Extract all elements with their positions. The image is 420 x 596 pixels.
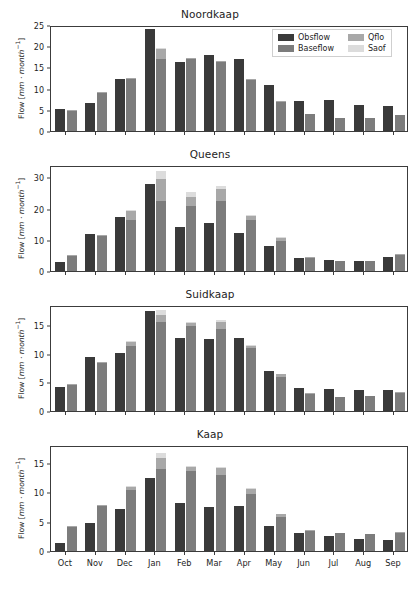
x-tick-mark <box>184 132 185 135</box>
chart-legend: ObsflowQfloBaseflowSaof <box>272 29 392 57</box>
x-tick-mark <box>154 552 155 555</box>
bar-segment-qflo <box>126 211 136 219</box>
y-tick-mark <box>47 178 50 179</box>
bar-segment-baseflow <box>246 220 256 271</box>
y-tick-label: 25 <box>24 22 44 31</box>
bar-simulated-stack <box>97 92 107 131</box>
bar-obsflow <box>55 262 65 271</box>
bar-segment-qflo <box>395 392 405 393</box>
y-tick-mark <box>47 132 50 133</box>
bar-simulated-stack <box>365 396 375 411</box>
bar-simulated-stack <box>67 110 77 131</box>
bar-segment-saof <box>246 488 256 489</box>
x-tick-mark <box>65 132 66 135</box>
bar-simulated-stack <box>305 257 315 271</box>
bar-segment-baseflow <box>186 471 196 551</box>
y-tick-mark <box>47 522 50 523</box>
bar-obsflow <box>204 507 214 551</box>
bar-obsflow <box>145 311 155 411</box>
panel-title: Noordkaap <box>0 8 420 21</box>
bar-obsflow <box>234 59 244 131</box>
y-tick-label: 0 <box>24 408 44 417</box>
bar-obsflow <box>264 526 274 551</box>
bar-segment-baseflow <box>395 392 405 411</box>
bar-obsflow <box>115 79 125 131</box>
bar-simulated-stack <box>186 58 196 131</box>
bar-simulated-stack <box>365 261 375 271</box>
x-tick-label: Apr <box>237 558 251 568</box>
bar-obsflow <box>383 106 393 131</box>
bar-obsflow <box>324 100 334 131</box>
x-tick-mark <box>125 272 126 275</box>
bar-simulated-stack <box>395 392 405 411</box>
bar-segment-baseflow <box>305 394 315 411</box>
bar-simulated-stack <box>67 384 77 411</box>
bar-segment-saof <box>156 310 166 315</box>
legend-item-baseflow[interactable]: Baseflow <box>278 44 334 53</box>
bar-segment-baseflow <box>276 102 286 131</box>
bar-obsflow <box>85 234 95 271</box>
x-tick-mark <box>154 132 155 135</box>
bar-segment-qflo <box>395 254 405 255</box>
x-tick-mark <box>184 412 185 415</box>
bar-segment-saof <box>246 345 256 346</box>
bar-segment-qflo <box>156 315 166 322</box>
x-tick-mark <box>274 132 275 135</box>
bar-obsflow <box>324 260 334 271</box>
bar-simulated-stack <box>126 341 136 411</box>
y-tick-mark <box>47 110 50 111</box>
y-tick-label: 30 <box>24 174 44 183</box>
bar-simulated-stack <box>335 533 345 551</box>
legend-swatch-icon <box>348 45 364 52</box>
bar-simulated-stack <box>365 534 375 551</box>
bar-segment-baseflow <box>365 261 375 271</box>
legend-label: Qflo <box>368 33 384 42</box>
bar-segment-baseflow <box>97 506 107 551</box>
bar-simulated-stack <box>305 530 315 551</box>
bar-obsflow <box>264 371 274 411</box>
bar-simulated-stack <box>305 114 315 131</box>
bar-segment-qflo <box>216 467 226 475</box>
bar-segment-baseflow <box>186 206 196 271</box>
bar-segment-baseflow <box>67 385 77 411</box>
bar-segment-baseflow <box>126 346 136 411</box>
legend-label: Obsflow <box>298 33 330 42</box>
bar-segment-baseflow <box>305 531 315 551</box>
bar-segment-qflo <box>97 362 107 363</box>
bar-segment-qflo <box>216 61 226 62</box>
bar-segment-saof <box>126 486 136 487</box>
bar-segment-baseflow <box>97 363 107 411</box>
legend-item-obsflow[interactable]: Obsflow <box>278 33 334 42</box>
x-tick-mark <box>125 132 126 135</box>
legend-item-qflo[interactable]: Qflo <box>348 33 386 42</box>
bar-segment-saof <box>126 341 136 342</box>
x-tick-mark <box>214 412 215 415</box>
legend-item-saof[interactable]: Saof <box>348 44 386 53</box>
bar-obsflow <box>234 506 244 551</box>
x-tick-mark <box>363 132 364 135</box>
bar-segment-qflo <box>186 323 196 326</box>
x-tick-mark <box>393 552 394 555</box>
y-tick-mark <box>47 240 50 241</box>
bar-obsflow <box>55 109 65 131</box>
bar-segment-qflo <box>156 458 166 469</box>
bar-simulated-stack <box>246 215 256 271</box>
y-tick-label: 0 <box>24 268 44 277</box>
bar-obsflow <box>85 523 95 551</box>
plot-area <box>50 166 408 272</box>
bar-simulated-stack <box>186 466 196 551</box>
bar-segment-baseflow <box>276 517 286 551</box>
bar-segment-baseflow <box>395 532 405 551</box>
y-tick-mark <box>47 463 50 464</box>
bar-segment-baseflow <box>126 490 136 551</box>
bar-segment-baseflow <box>335 397 345 411</box>
x-tick-mark <box>363 552 364 555</box>
bar-simulated-stack <box>395 115 405 131</box>
bar-segment-qflo <box>67 255 77 256</box>
y-tick-mark <box>47 272 50 273</box>
bar-simulated-stack <box>97 235 107 271</box>
bar-segment-qflo <box>305 530 315 531</box>
bar-segment-qflo <box>67 384 77 385</box>
bar-simulated-stack <box>305 393 315 411</box>
bar-simulated-stack <box>126 210 136 271</box>
